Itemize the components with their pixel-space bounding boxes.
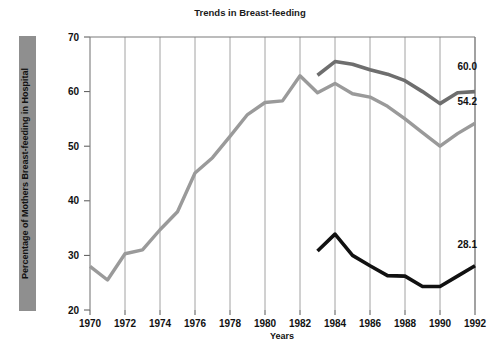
x-tick-label-1974: 1974	[149, 318, 172, 329]
label-upper: 60.0	[458, 61, 478, 72]
x-tick-label-1976: 1976	[184, 318, 207, 329]
x-tick-label-1990: 1990	[429, 318, 452, 329]
x-tick-label-1982: 1982	[289, 318, 312, 329]
x-tick-label-1972: 1972	[114, 318, 137, 329]
x-tick-label-1986: 1986	[359, 318, 382, 329]
breastfeeding-trends-chart: Trends in Breast-feeding Percentage of M…	[0, 0, 500, 344]
x-axis-title: Years	[270, 331, 294, 341]
y-tick-label-70: 70	[68, 32, 80, 43]
chart-title: Trends in Breast-feeding	[194, 7, 306, 18]
x-tick-label-1970: 1970	[79, 318, 102, 329]
chart-background	[0, 0, 500, 344]
x-tick-label-1978: 1978	[219, 318, 242, 329]
x-tick-label-1980: 1980	[254, 318, 277, 329]
y-tick-label-40: 40	[68, 195, 80, 206]
y-axis-title: Percentage of Mothers Breast-feeding in …	[20, 68, 30, 279]
y-tick-label-30: 30	[68, 250, 80, 261]
x-tick-label-1984: 1984	[324, 318, 347, 329]
x-tick-label-1992: 1992	[464, 318, 487, 329]
label-lower: 28.1	[458, 239, 478, 250]
y-tick-label-50: 50	[68, 141, 80, 152]
y-tick-label-60: 60	[68, 86, 80, 97]
y-tick-label-20: 20	[68, 305, 80, 316]
x-tick-label-1988: 1988	[394, 318, 417, 329]
label-middle: 54.2	[458, 96, 478, 107]
